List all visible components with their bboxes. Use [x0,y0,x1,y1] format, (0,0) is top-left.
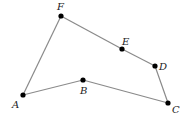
polygon-diagram: ABCDEF [0,0,184,119]
vertex-point-d [152,63,157,68]
vertex-label-d: D [158,61,167,72]
vertex-label-e: E [121,36,130,47]
vertex-point-e [119,46,124,51]
edges-group [23,16,168,103]
edge-fa [23,16,61,95]
edge-bc [83,80,168,103]
labels-group: ABCDEF [11,1,180,115]
vertex-point-c [165,100,170,105]
vertex-label-c: C [172,104,180,115]
vertex-label-a: A [11,99,19,110]
vertex-label-f: F [56,1,65,12]
vertex-label-b: B [79,85,87,96]
vertex-point-b [80,77,85,82]
edge-de [122,49,155,66]
vertices-group [20,13,170,105]
edge-ef [61,16,122,49]
vertex-point-f [58,13,63,18]
edge-ab [23,80,83,95]
vertex-point-a [20,92,25,97]
